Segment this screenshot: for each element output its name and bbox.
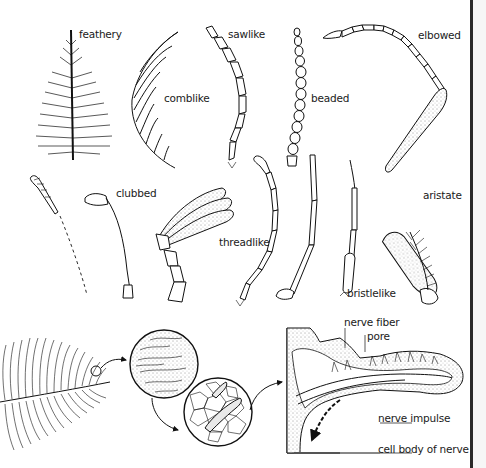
- label-threadlike: threadlike: [219, 236, 269, 248]
- label-nerve-impulse: nerve impulse: [378, 412, 450, 424]
- filiform-antenna-drawing: [276, 155, 317, 299]
- beaded-antenna-drawing: [287, 28, 306, 166]
- label-nerve-fiber: nerve fiber: [344, 316, 399, 328]
- label-comblike: comblike: [164, 92, 210, 104]
- clubbed-antenna-drawing-1: [30, 176, 87, 295]
- label-cell-body-of-nerve: cell body of nerve: [378, 443, 469, 455]
- diagram-illustrations: [0, 0, 486, 468]
- magnified-surface-drawing: [130, 330, 282, 446]
- threadlike-antenna-drawing: [236, 156, 278, 306]
- label-elbowed: elbowed: [418, 29, 461, 41]
- label-beaded: beaded: [311, 92, 349, 104]
- feathery-antenna-drawing: [36, 30, 112, 160]
- label-bristlelike: bristlelike: [347, 287, 396, 299]
- label-pore: pore: [367, 330, 390, 342]
- feather-closeup-drawing: [0, 338, 126, 450]
- bristlelike-antenna-drawing: [340, 160, 357, 296]
- sensory-pit-section-drawing: [287, 328, 463, 453]
- label-clubbed: clubbed: [116, 187, 156, 199]
- label-feathery: feathery: [79, 28, 122, 40]
- label-aristate: aristate: [423, 189, 462, 201]
- page-margin: [473, 0, 486, 468]
- antenna-types-diagram: feathery comblike sawlike beaded elbowed…: [0, 0, 486, 468]
- clubbed-antenna-drawing-2: [85, 194, 133, 298]
- sawlike-antenna-drawing: [206, 26, 246, 168]
- label-sawlike: sawlike: [228, 28, 265, 40]
